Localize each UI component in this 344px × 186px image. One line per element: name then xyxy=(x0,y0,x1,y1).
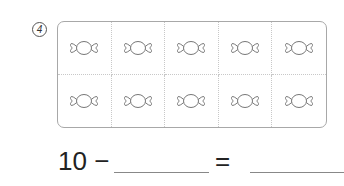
candy-icon xyxy=(68,92,100,110)
ten-frame-cell xyxy=(219,22,273,75)
candy-icon xyxy=(68,39,100,57)
ten-frame xyxy=(57,21,327,128)
ten-frame-cell xyxy=(112,22,166,75)
problem-number-badge: 4 xyxy=(32,22,47,37)
candy-icon xyxy=(229,39,261,57)
answer-blank-subtrahend[interactable] xyxy=(114,172,209,173)
ten-frame-cell xyxy=(58,75,112,128)
candy-icon xyxy=(122,39,154,57)
candy-icon xyxy=(175,92,207,110)
ten-frame-cell xyxy=(219,75,273,128)
ten-frame-cell xyxy=(58,22,112,75)
ten-frame-cell xyxy=(112,75,166,128)
answer-blank-result[interactable] xyxy=(250,172,344,173)
ten-frame-cell xyxy=(272,75,326,128)
equals-sign: = xyxy=(215,146,230,176)
ten-frame-cell xyxy=(165,75,219,128)
candy-icon xyxy=(122,92,154,110)
candy-icon xyxy=(283,92,315,110)
ten-frame-cell xyxy=(165,22,219,75)
candy-icon xyxy=(229,92,261,110)
equation-minuend: 10 − xyxy=(58,146,109,176)
candy-icon xyxy=(283,39,315,57)
candy-icon xyxy=(175,39,207,57)
ten-frame-cell xyxy=(272,22,326,75)
